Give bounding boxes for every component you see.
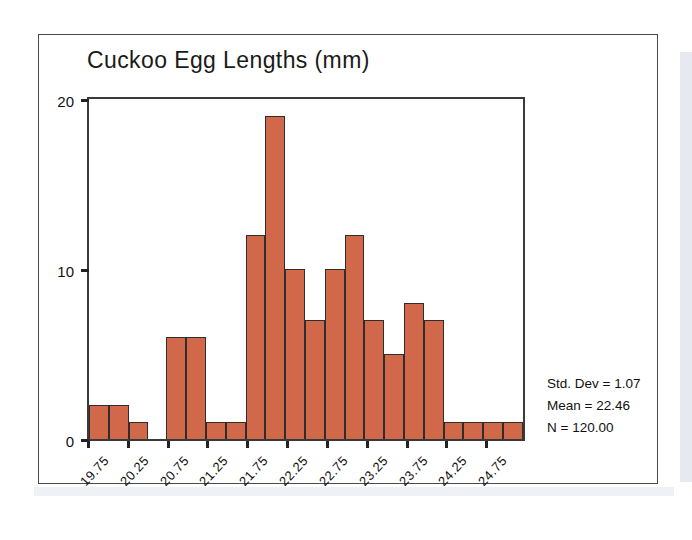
- y-axis-tick-label: 20: [57, 93, 74, 110]
- histogram-bar: [424, 320, 444, 439]
- x-axis-tick: [206, 441, 209, 448]
- histogram-bar: [483, 422, 503, 439]
- histogram-bar: [109, 405, 129, 439]
- histogram-bar: [246, 235, 266, 439]
- histogram-bar: [89, 405, 109, 439]
- scan-edge-tint-bottom: [34, 487, 674, 496]
- histogram-bar: [345, 235, 365, 439]
- histogram-bars: [89, 99, 523, 439]
- chart-title: Cuckoo Egg Lengths (mm): [87, 47, 370, 74]
- x-axis-tick-label: 20.75: [157, 453, 192, 489]
- x-axis-tick: [286, 441, 289, 448]
- x-axis-tick-label: 20.25: [117, 453, 152, 489]
- x-axis-tick: [485, 441, 488, 448]
- x-axis-tick-label: 21.75: [236, 453, 271, 489]
- y-axis-tick: 10: [81, 269, 89, 272]
- histogram-bar: [364, 320, 384, 439]
- histogram-bar: [265, 116, 285, 439]
- histogram-bar: [305, 320, 325, 439]
- histogram-bar: [404, 303, 424, 439]
- histogram-bar: [463, 422, 483, 439]
- x-axis-tick-label: 19.75: [77, 453, 112, 489]
- histogram-bar: [444, 422, 464, 439]
- x-axis-tick: [246, 441, 249, 448]
- x-axis-tick: [167, 441, 170, 448]
- x-axis-tick-label: 23.25: [356, 453, 391, 489]
- histogram-bar: [325, 269, 345, 439]
- y-axis-tick-label: 10: [57, 263, 74, 280]
- x-axis-tick-label: 22.75: [316, 453, 351, 489]
- x-axis-tick: [87, 441, 90, 448]
- y-axis-tick-label: 0: [66, 433, 74, 450]
- std-dev-text: Std. Dev = 1.07: [547, 373, 640, 395]
- histogram-bar: [285, 269, 305, 439]
- x-axis-tick: [406, 441, 409, 448]
- x-axis-tick: [127, 441, 130, 448]
- x-axis-tick-label: 24.75: [475, 453, 510, 489]
- histogram-bar: [186, 337, 206, 439]
- x-axis-tick-label: 21.25: [197, 453, 232, 489]
- histogram-bar: [384, 354, 404, 439]
- x-axis-tick-label: 23.75: [396, 453, 431, 489]
- histogram-bar: [166, 337, 186, 439]
- x-axis-tick: [326, 441, 329, 448]
- plot-area: 01020: [87, 97, 525, 441]
- chart-frame: Cuckoo Egg Lengths (mm) 01020 19.7520.25…: [38, 34, 658, 484]
- statistics-block: Std. Dev = 1.07 Mean = 22.46 N = 120.00: [547, 373, 640, 439]
- y-axis-tick: 20: [81, 99, 89, 102]
- x-axis-tick: [445, 441, 448, 448]
- x-axis-tick-label: 22.25: [276, 453, 311, 489]
- scan-edge-tint-right: [680, 52, 692, 482]
- histogram-bar: [226, 422, 246, 439]
- x-axis-tick: [366, 441, 369, 448]
- mean-text: Mean = 22.46: [547, 395, 640, 417]
- histogram-bar: [503, 422, 523, 439]
- n-text: N = 120.00: [547, 417, 640, 439]
- histogram-bar: [206, 422, 226, 439]
- x-axis-tick-label: 24.25: [435, 453, 470, 489]
- histogram-bar: [129, 422, 149, 439]
